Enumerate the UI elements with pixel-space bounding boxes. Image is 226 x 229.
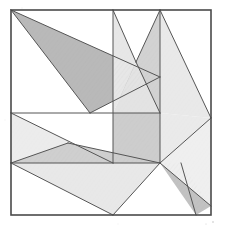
drawing-canvas <box>0 0 226 229</box>
geometric-figure <box>0 0 226 229</box>
shaded-square-center-texture <box>113 113 160 163</box>
